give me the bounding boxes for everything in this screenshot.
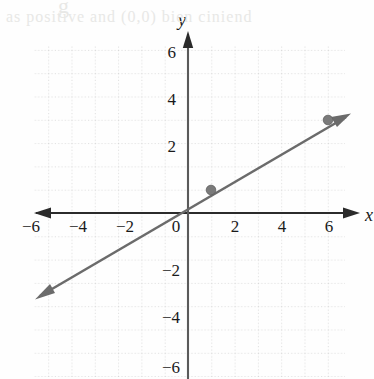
x-tick-label-neg4: −4 xyxy=(69,217,88,236)
x-tick-label-6: 6 xyxy=(325,217,334,236)
x-tick-label-neg6: −6 xyxy=(22,217,40,236)
x-tick-label-2: 2 xyxy=(231,217,240,236)
y-tick-label-neg2: −2 xyxy=(162,261,180,280)
x-tick-label-4: 4 xyxy=(278,217,287,236)
data-point-marker xyxy=(206,185,216,195)
bleed-through-text-row1: as positive and (0,0) bien ciniend xyxy=(6,8,252,26)
y-tick-label-neg6: −6 xyxy=(162,358,180,377)
origin-label: 0 xyxy=(172,217,181,236)
x-tick-label-neg2: −2 xyxy=(116,217,134,236)
y-tick-label-2: 2 xyxy=(168,137,177,156)
graph-svg: y x −6 −4 −2 0 2 4 6 6 4 2 −2 −4 −6 xyxy=(0,0,374,379)
coordinate-plane-figure: g as positive and (0,0) bien ciniend xyxy=(0,0,374,379)
y-tick-label-neg4: −4 xyxy=(162,308,181,327)
x-axis-label: x xyxy=(364,205,373,225)
y-tick-label-4: 4 xyxy=(168,90,177,109)
data-point-marker xyxy=(323,115,333,125)
y-tick-label-6: 6 xyxy=(168,43,177,62)
